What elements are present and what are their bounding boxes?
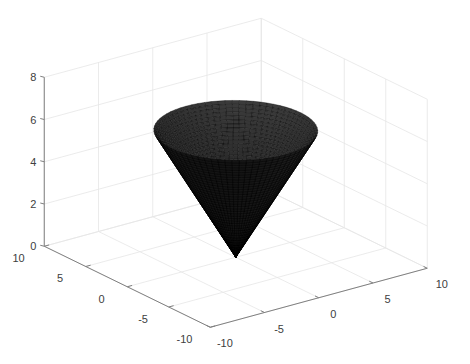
y-tick [210, 326, 215, 327]
surface-face [241, 204, 245, 207]
surface-face [237, 211, 240, 214]
surface-face [245, 120, 251, 124]
surface-face [237, 214, 240, 217]
surface-face [238, 185, 243, 188]
z-tick-label: 8 [30, 71, 36, 83]
surface-face [234, 204, 238, 206]
surface-face [219, 105, 226, 109]
surface-face [225, 104, 232, 108]
surface-face [228, 189, 233, 192]
surface-face [236, 235, 238, 237]
surface-face [227, 175, 233, 178]
surface-face [225, 160, 232, 163]
surface-face [213, 113, 220, 117]
surface-face [235, 228, 237, 230]
surface-face [239, 168, 246, 171]
y-tick [44, 245, 49, 246]
surface-face [243, 152, 248, 156]
surface-face [234, 202, 238, 204]
x-tick-label: 0 [330, 308, 336, 320]
surface-face [238, 155, 243, 159]
surface-face [229, 151, 234, 155]
surface-face [222, 136, 228, 140]
surface-plot: -10-50510-10-5051002468 [0, 0, 470, 364]
surface-face [229, 221, 232, 224]
surface-face [224, 152, 229, 156]
y-tick-label: 5 [57, 272, 63, 284]
surface-face [218, 160, 225, 163]
surface-face [232, 221, 235, 224]
surface-face [225, 100, 232, 104]
surface-face [233, 192, 238, 194]
surface-face [233, 140, 238, 144]
surface-face [237, 219, 240, 221]
surface-face [216, 128, 222, 132]
surface-face [217, 140, 223, 144]
surface-face [239, 177, 245, 180]
surface-face [223, 140, 229, 144]
surface-face [224, 155, 229, 159]
surface-face [232, 170, 238, 172]
surface-face [247, 152, 252, 156]
surface-face [240, 216, 243, 219]
surface-face [232, 165, 239, 167]
x-tick-label: -5 [274, 323, 284, 335]
surface-face [229, 199, 233, 202]
surface-face [223, 144, 228, 148]
surface-face [232, 163, 239, 165]
surface-face [233, 173, 239, 175]
surface-face [247, 156, 252, 160]
y-tick-label: 10 [12, 252, 24, 264]
surface-face [239, 132, 245, 136]
surface-face [212, 109, 219, 113]
surface-face [233, 197, 237, 199]
surface-face [227, 182, 233, 185]
surface-face [249, 136, 255, 140]
surface-face [239, 124, 245, 128]
surface-face [239, 116, 246, 120]
surface-face [245, 113, 252, 117]
surface-face [228, 136, 234, 140]
surface-face [220, 120, 226, 124]
surface-face [239, 175, 245, 178]
surface-face [233, 144, 238, 148]
surface-face [229, 194, 234, 197]
x-tick-label: -10 [217, 337, 233, 349]
surface-face [237, 206, 241, 209]
surface-face [231, 214, 234, 217]
y-tick-label: -5 [138, 313, 148, 325]
y-tick-label: -10 [177, 333, 193, 345]
surface-face [234, 155, 239, 159]
surface-face [237, 228, 239, 230]
surface-face [231, 211, 234, 214]
surface-face [234, 216, 237, 218]
surface-face [233, 194, 238, 196]
z-tick-label: 6 [30, 114, 36, 126]
surface-face [226, 172, 232, 175]
surface-face [228, 144, 233, 148]
surface-face [232, 104, 239, 108]
surface-face [241, 211, 245, 214]
surface-face [232, 160, 239, 162]
surface-face [219, 112, 226, 116]
surface-face [220, 156, 225, 160]
surface-face [246, 160, 253, 163]
surface-face [235, 243, 236, 245]
surface-face [230, 201, 234, 204]
surface-face [230, 204, 234, 207]
surface-face [239, 165, 246, 168]
surface-face [249, 140, 255, 144]
surface-face [227, 180, 233, 183]
surface-face [231, 216, 234, 219]
surface-face [227, 132, 233, 136]
surface-face [235, 248, 236, 250]
x-tick [424, 266, 428, 268]
surface-face [226, 116, 233, 120]
surface-face [237, 233, 239, 235]
surface-face [233, 175, 239, 177]
z-tick [40, 119, 44, 120]
surface-face [238, 204, 242, 207]
surface-face [239, 120, 245, 124]
surface-face [233, 190, 238, 192]
surface-face [234, 214, 237, 216]
